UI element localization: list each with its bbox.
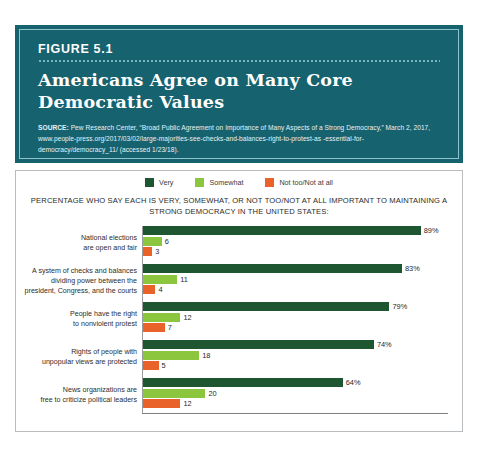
bar-row[interactable]: 12 <box>143 399 462 408</box>
bar-row[interactable]: 64% <box>143 378 462 387</box>
bar[interactable] <box>143 361 159 370</box>
x-axis-baseline <box>142 413 448 415</box>
category-label-line: Rights of people with <box>16 347 137 357</box>
bar-row[interactable]: 18 <box>143 351 462 360</box>
bar-row[interactable]: 89% <box>143 226 462 235</box>
bar-value-label: 83% <box>405 264 420 273</box>
category-label-line: News organizations are <box>16 385 137 395</box>
bar-value-label: 6 <box>165 237 169 246</box>
bar[interactable] <box>143 340 374 349</box>
bar-row[interactable]: 7 <box>143 323 462 332</box>
chart-subtitle: PERCENTAGE WHO SAY EACH IS VERY, SOMEWHA… <box>26 195 452 217</box>
bar-value-label: 3 <box>155 247 159 256</box>
bar[interactable] <box>143 302 389 311</box>
category-label: Rights of people withunpopular views are… <box>16 347 142 367</box>
bar-value-label: 79% <box>392 302 407 311</box>
bar[interactable] <box>143 378 343 387</box>
bar-row[interactable]: 4 <box>143 285 462 294</box>
category-label: People have the rightto nonviolent prote… <box>16 309 142 329</box>
category-label-line: are open and fair <box>16 243 137 253</box>
legend-swatch-icon <box>145 178 154 187</box>
legend-item[interactable]: Very <box>145 178 173 187</box>
bar-row[interactable]: 74% <box>143 340 462 349</box>
source-citation-text: Pew Research Center, “Broad Public Agree… <box>38 124 430 152</box>
legend-swatch-icon <box>265 178 274 187</box>
category-label-line: National elections <box>16 233 137 243</box>
bar[interactable] <box>143 323 165 332</box>
category-label: News organizations arefree to criticize … <box>16 385 142 405</box>
bar-group: People have the rightto nonviolent prote… <box>16 302 462 335</box>
bar[interactable] <box>143 247 152 256</box>
bar[interactable] <box>143 275 177 284</box>
figure-header-inner: FIGURE 5.1 Americans Agree on Many Core … <box>19 29 459 159</box>
category-label-line: president, Congress, and the courts <box>16 286 137 296</box>
bar[interactable] <box>143 351 199 360</box>
bar-row[interactable]: 20 <box>143 389 462 398</box>
bar-row[interactable]: 83% <box>143 264 462 273</box>
bar-groups-container: National electionsare open and fair89%63… <box>16 226 462 411</box>
bar[interactable] <box>143 264 402 273</box>
chart-legend: VerySomewhatNot too/Not at all <box>16 171 462 189</box>
bar-value-label: 7 <box>168 323 172 332</box>
bar-row[interactable]: 5 <box>143 361 462 370</box>
figure-header: FIGURE 5.1 Americans Agree on Many Core … <box>15 25 463 163</box>
bar-set: 89%63 <box>142 226 462 257</box>
legend-item-label: Somewhat <box>209 178 243 187</box>
figure-number-label: FIGURE 5.1 <box>38 42 440 56</box>
bar-value-label: 74% <box>377 340 392 349</box>
bar-row[interactable]: 6 <box>143 237 462 246</box>
bar[interactable] <box>143 389 205 398</box>
bar-group: National electionsare open and fair89%63 <box>16 226 462 259</box>
dotted-divider <box>38 60 440 62</box>
bar-row[interactable]: 3 <box>143 247 462 256</box>
legend-item-label: Not too/Not at all <box>279 178 333 187</box>
plot-area: National electionsare open and fair89%63… <box>16 226 462 422</box>
bar[interactable] <box>143 237 162 246</box>
bar-set: 83%114 <box>142 264 462 295</box>
bar-set: 74%185 <box>142 340 462 371</box>
bar[interactable] <box>143 285 155 294</box>
bar-group: Rights of people withunpopular views are… <box>16 340 462 373</box>
bar-value-label: 12 <box>183 313 191 322</box>
bar-row[interactable]: 79% <box>143 302 462 311</box>
bar-value-label: 11 <box>180 275 188 284</box>
bar-value-label: 4 <box>158 285 162 294</box>
category-label-line: dividing power between the <box>16 276 137 286</box>
legend-item-label: Very <box>159 178 173 187</box>
bar-row[interactable]: 12 <box>143 313 462 322</box>
bar-row[interactable]: 11 <box>143 275 462 284</box>
category-label: National electionsare open and fair <box>16 233 142 253</box>
category-label-line: free to criticize political leaders <box>16 395 137 405</box>
bar-value-label: 64% <box>346 378 361 387</box>
source-lead-label: SOURCE: <box>38 124 69 131</box>
bar-set: 79%127 <box>142 302 462 333</box>
bar-group: News organizations arefree to criticize … <box>16 378 462 411</box>
figure-title: Americans Agree on Many Core Democratic … <box>38 70 440 113</box>
bar[interactable] <box>143 313 180 322</box>
bar[interactable] <box>143 226 421 235</box>
category-label: A system of checks and balancesdividing … <box>16 266 142 296</box>
bar-value-label: 18 <box>202 351 210 360</box>
bar[interactable] <box>143 399 180 408</box>
bar-group: A system of checks and balancesdividing … <box>16 264 462 297</box>
chart-panel: VerySomewhatNot too/Not at all PERCENTAG… <box>15 170 463 432</box>
figure-page: FIGURE 5.1 Americans Agree on Many Core … <box>0 0 478 454</box>
category-label-line: unpopular views are protected <box>16 357 137 367</box>
legend-item[interactable]: Somewhat <box>195 178 243 187</box>
legend-item[interactable]: Not too/Not at all <box>265 178 333 187</box>
bar-value-label: 89% <box>424 226 439 235</box>
figure-source: SOURCE: Pew Research Center, “Broad Publ… <box>38 123 440 155</box>
category-label-line: A system of checks and balances <box>16 266 137 276</box>
legend-swatch-icon <box>195 178 204 187</box>
bar-value-label: 5 <box>162 361 166 370</box>
category-label-line: to nonviolent protest <box>16 319 137 329</box>
category-label-line: People have the right <box>16 309 137 319</box>
bar-value-label: 12 <box>183 399 191 408</box>
bar-value-label: 20 <box>208 389 216 398</box>
bar-set: 64%2012 <box>142 378 462 409</box>
